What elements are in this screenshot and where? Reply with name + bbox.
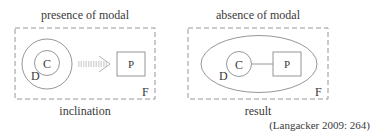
right-caption: result: [245, 104, 272, 118]
left-F-label: F: [142, 85, 149, 99]
left-P-label: P: [128, 58, 134, 70]
right-C-label: C: [235, 58, 243, 72]
left-C-label: C: [43, 57, 51, 71]
right-P-label: P: [284, 58, 290, 70]
left-title: presence of modal: [41, 8, 130, 22]
modal-diagram: presence of modal C D P F inclination ab…: [0, 0, 372, 132]
right-F-label: F: [315, 85, 322, 99]
left-panel: presence of modal C D P F inclination: [15, 8, 155, 118]
left-D-label: D: [31, 69, 40, 83]
left-caption: inclination: [59, 104, 110, 118]
right-panel: absence of modal C P D F result: [188, 8, 328, 118]
right-title: absence of modal: [216, 8, 301, 22]
right-frame-F: [188, 28, 328, 99]
right-D-label: D: [219, 69, 228, 83]
citation: (Langacker 2009: 264): [269, 119, 370, 132]
dotted-arrow-icon: [78, 56, 110, 72]
